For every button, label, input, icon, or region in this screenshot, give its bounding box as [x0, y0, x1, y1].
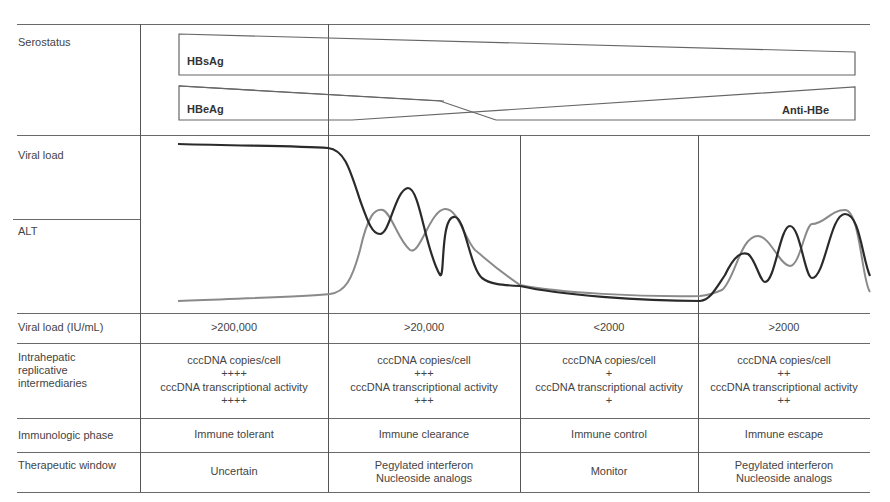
hbeag-decline	[179, 86, 496, 120]
cccdna-copies-value: +	[606, 367, 612, 381]
cccdna-copies-value: ++++	[221, 367, 247, 381]
therapy-line: Nucleoside analogs	[376, 472, 472, 486]
therapeutic-window-cell: Pegylated interferon Nucleoside analogs	[328, 452, 520, 492]
cccdna-activity-value: +++	[414, 394, 433, 408]
therapy-line: Pegylated interferon	[375, 459, 473, 473]
viral-load-cell: <2000	[520, 313, 698, 343]
cccdna-copies-value: +++	[414, 367, 433, 381]
cccdna-copies-label: cccDNA copies/cell	[737, 354, 831, 368]
hbeag-label: HBeAg	[187, 103, 224, 115]
anti-hbe-wedge	[352, 87, 855, 120]
immunologic-phase-cell: Immune escape	[698, 418, 870, 452]
anti-hbe-label: Anti-HBe	[782, 104, 829, 116]
cccdna-copies-label: cccDNA copies/cell	[377, 354, 471, 368]
cccdna-activity-label: cccDNA transcriptional activity	[160, 381, 307, 395]
cccdna-activity-label: cccDNA transcriptional activity	[350, 381, 497, 395]
cccdna-activity-value: ++	[778, 394, 791, 408]
viral-load-cell: >200,000	[140, 313, 328, 343]
therapeutic-window-cell: Uncertain	[140, 452, 328, 492]
therapeutic-window-cell: Pegylated interferon Nucleoside analogs	[698, 452, 870, 492]
intrahepatic-cell: cccDNA copies/cell + cccDNA transcriptio…	[520, 343, 698, 418]
cccdna-copies-label: cccDNA copies/cell	[187, 354, 281, 368]
viral-load-cell: >20,000	[328, 313, 520, 343]
therapy-line: Nucleoside analogs	[736, 472, 832, 486]
cccdna-activity-value: ++++	[221, 394, 247, 408]
cccdna-activity-value: +	[606, 394, 612, 408]
intrahepatic-cell: cccDNA copies/cell ++ cccDNA transcripti…	[698, 343, 870, 418]
therapy-line: Monitor	[591, 465, 628, 479]
intrahepatic-cell: cccDNA copies/cell ++++ cccDNA transcrip…	[140, 343, 328, 418]
cccdna-copies-label: cccDNA copies/cell	[562, 354, 656, 368]
cccdna-copies-value: ++	[778, 367, 791, 381]
immunologic-phase-cell: Immune tolerant	[140, 418, 328, 452]
intrahepatic-cell: cccDNA copies/cell +++ cccDNA transcript…	[328, 343, 520, 418]
viral-load-curve	[178, 144, 870, 301]
cccdna-activity-label: cccDNA transcriptional activity	[535, 381, 682, 395]
therapy-line: Uncertain	[210, 465, 257, 479]
therapeutic-window-cell: Monitor	[520, 452, 698, 492]
cccdna-activity-label: cccDNA transcriptional activity	[710, 381, 857, 395]
hbsag-bar	[179, 34, 855, 75]
viral-load-cell: >2000	[698, 313, 870, 343]
immunologic-phase-cell: Immune control	[520, 418, 698, 452]
therapy-line: Pegylated interferon	[735, 459, 833, 473]
immunologic-phase-cell: Immune clearance	[328, 418, 520, 452]
hbsag-label: HBsAg	[187, 55, 224, 67]
